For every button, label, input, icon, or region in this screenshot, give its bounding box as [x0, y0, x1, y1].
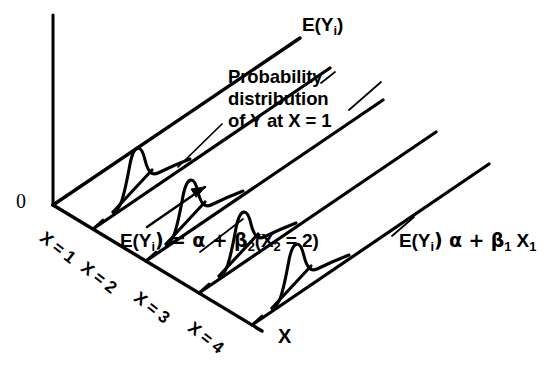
callout-line-3: of Y at X = 1: [228, 110, 331, 132]
diagram-canvas: [0, 0, 550, 373]
equation-beta2: E(Yi) = α + β2(X2 = 2): [120, 229, 319, 254]
equation-beta1: E(Yi) α + β1 X1: [399, 229, 536, 254]
regression-diagram-figure: E(Yi) 0 X Probability distribution of Y …: [0, 0, 550, 373]
origin-label: 0: [16, 190, 26, 214]
pointer-arrow: [147, 187, 205, 227]
vertical-axis-label: E(Yi): [302, 14, 343, 38]
callout-line-1: Probability: [228, 66, 331, 88]
probability-distribution-callout: Probability distribution of Y at X = 1: [228, 66, 331, 131]
callout-line-2: distribution: [228, 88, 331, 110]
x-axis-label: X: [278, 325, 291, 349]
